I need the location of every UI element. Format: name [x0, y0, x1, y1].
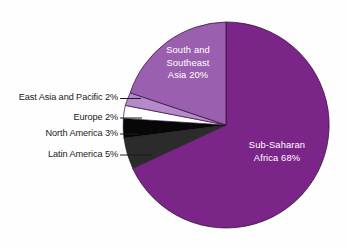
slice-label-south-southeast-asia-line3: Asia 20% [136, 69, 240, 82]
slice-callout-europe-text: Europe 2% [73, 112, 118, 122]
slice-callout-east-asia-pacific-text: East Asia and Pacific 2% [19, 92, 118, 102]
slice-callout-europe: Europe 2% [73, 112, 118, 123]
slice-callout-north-america-text: North America 3% [46, 128, 118, 138]
slice-label-south-southeast-asia-line2: Southeast [136, 57, 240, 70]
slice-label-south-southeast-asia: South and Southeast Asia 20% [136, 44, 240, 82]
slice-callout-latin-america: Latin America 5% [48, 149, 118, 160]
slice-label-sub-saharan-africa-line1: Sub-Saharan [225, 139, 329, 152]
slice-label-south-southeast-asia-line1: South and [136, 44, 240, 57]
pie-chart-svg [0, 0, 348, 249]
slice-label-sub-saharan-africa: Sub-Saharan Africa 68% [225, 139, 329, 164]
slice-label-sub-saharan-africa-line2: Africa 68% [225, 152, 329, 165]
pie-chart-figure: East Asia and Pacific 2% Europe 2% North… [0, 0, 348, 249]
slice-callout-east-asia-pacific: East Asia and Pacific 2% [19, 92, 118, 103]
slice-callout-latin-america-text: Latin America 5% [48, 149, 118, 159]
slice-callout-north-america: North America 3% [46, 128, 118, 139]
